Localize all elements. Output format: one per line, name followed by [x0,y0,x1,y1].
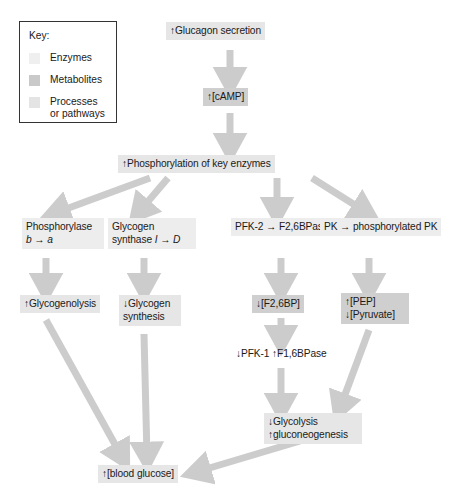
node-arrow-glyph: → [32,234,48,245]
node-line: ↑gluconeogenesis [268,429,348,440]
edge-glycolysis-to-blood-glucose [196,441,300,472]
process-swatch [29,97,40,108]
node-pfk1-f16bpase: ↓PFK-1 ↑F1,6BPase [232,345,331,363]
key-entry-label: Enzymes [50,52,92,64]
node-phosphorylase: Phosphorylase b → a [22,218,104,249]
node-glycolysis-gluconeogenesis: ↓Glycolysis ↑gluconeogenesis [264,413,362,444]
node-phosphorylation: ↑Phosphorylation of key enzymes [118,155,275,173]
node-sub: D [173,234,180,245]
edge-phosphorylation-to-glycogen-synthase [139,178,168,212]
node-line: ↓[Pyruvate] [345,309,395,320]
key-legend: Key: Enzymes Metabolites Processes or pa… [19,21,117,123]
node-f26bp: ↓[F2,6BP] [252,295,304,313]
node-glycogen-synthase: Glycogen synthase I → D [108,218,196,249]
pathway-diagram: Key: Enzymes Metabolites Processes or pa… [0,0,457,496]
node-glucagon-secretion: ↑Glucagon secretion [166,22,265,40]
node-line: ↓Glycolysis [268,416,318,427]
node-pfk2: PFK-2 → F2,6BPase [231,218,332,236]
metabolite-swatch [29,75,40,86]
node-line: ↓Glycogen [123,298,170,309]
edge-phosphorylation-to-pk [312,178,366,212]
node-arrow-glyph: → [157,234,173,245]
node-line: synthesis [123,311,165,322]
edge-phosphorylation-to-phosphorylase [55,178,150,213]
node-pep-pyruvate: ↑[PEP] ↓[Pyruvate] [341,293,409,324]
key-entry-label: Processes or pathways [50,96,105,120]
key-entry-processes: Processes or pathways [29,96,105,120]
node-camp: ↑[cAMP] [203,88,248,106]
node-line: ↑[PEP] [345,296,376,307]
node-sub: a [47,234,53,245]
edge-glycogenolysis-to-blood-glucose [46,320,122,457]
node-blood-glucose: ↑[blood glucose] [98,465,178,483]
edge-pep-pyruvate-to-glycolysis [340,330,369,408]
node-line: Glycogen [112,221,154,232]
node-line: Phosphorylase [26,221,92,232]
edge-glycogen-synthesis-to-blood-glucose [144,334,147,457]
key-entry-metabolites: Metabolites [29,74,102,86]
enzyme-swatch [29,53,40,64]
node-glycogen-synthesis: ↓Glycogen synthesis [119,295,181,326]
node-glycogenolysis: ↑Glycogenolysis [20,295,100,313]
key-title: Key: [29,30,49,41]
node-sub: synthase [112,234,155,245]
key-entry-label: Metabolites [50,74,102,86]
key-entry-enzymes: Enzymes [29,52,92,64]
node-pk: PK → phosphorylated PK [320,218,441,236]
